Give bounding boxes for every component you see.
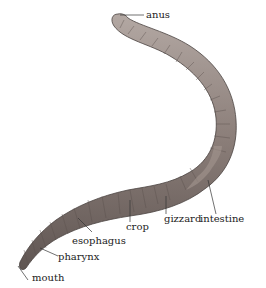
earthworm-diagram: anus intestine gizzard crop esophagus ph… [0, 0, 266, 288]
label-gizzard: gizzard [164, 214, 201, 224]
label-crop: crop [126, 222, 149, 232]
earthworm-illustration [0, 0, 266, 288]
label-pharynx: pharynx [58, 252, 99, 262]
label-intestine: intestine [200, 214, 244, 224]
label-anus: anus [146, 10, 170, 20]
label-esophagus: esophagus [72, 236, 126, 246]
label-mouth: mouth [32, 273, 64, 283]
